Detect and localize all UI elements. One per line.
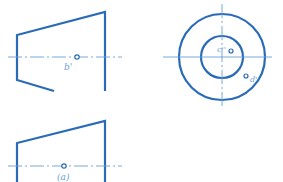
label-c: c'' — [217, 45, 226, 54]
orthographic-drawing: b' c'' d'' (a) — [0, 0, 283, 182]
point-c — [229, 49, 233, 53]
side-view: c'' d'' — [163, 4, 272, 108]
top-view: (a) — [8, 121, 122, 182]
label-a: (a) — [57, 172, 70, 182]
front-view-outline — [17, 12, 105, 91]
point-b — [75, 55, 79, 59]
label-d: d'' — [250, 75, 260, 84]
label-b: b' — [64, 62, 72, 72]
front-view: b' — [8, 12, 122, 91]
point-a — [62, 164, 66, 168]
point-d — [244, 74, 248, 78]
